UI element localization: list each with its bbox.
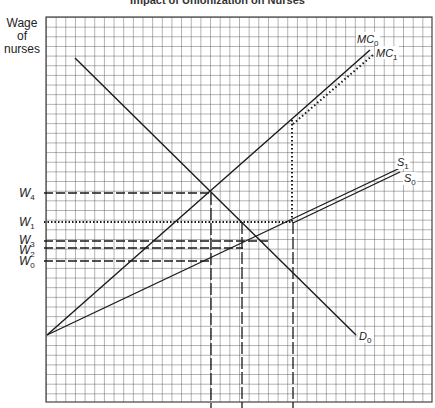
chart-plot: W4 W1 W3 W2 W0 MC0 MC1 S1 S0 D0: [0, 0, 435, 408]
grid-area: [46, 17, 432, 402]
w4-label: W4: [19, 186, 35, 202]
w1-label: W1: [19, 215, 35, 231]
